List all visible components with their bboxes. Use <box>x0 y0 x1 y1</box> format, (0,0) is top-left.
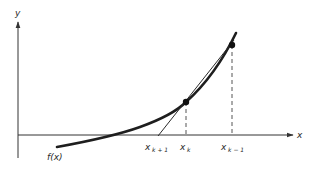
point-xk <box>183 99 189 105</box>
svg-text:k + 1: k + 1 <box>152 146 168 153</box>
svg-text:k − 1: k − 1 <box>228 146 244 153</box>
y-axis-label: y <box>14 8 21 18</box>
label-x-k-plus-1: x k + 1 <box>144 142 168 153</box>
svg-text:x: x <box>179 142 186 152</box>
curve-label: f(x) <box>47 152 63 162</box>
point-xk-minus-1 <box>229 42 235 48</box>
x-axis-label: x <box>296 130 303 140</box>
secant-line <box>158 40 234 136</box>
svg-text:x: x <box>144 142 151 152</box>
x-axis: x <box>18 130 303 140</box>
label-x-k: x k <box>179 142 191 153</box>
svg-text:x: x <box>220 142 227 152</box>
function-curve <box>57 33 236 147</box>
secant-method-diagram: y x f(x) x k + 1 x k x k − 1 <box>0 0 310 173</box>
label-x-k-minus-1: x k − 1 <box>220 142 244 153</box>
svg-text:k: k <box>187 146 191 153</box>
